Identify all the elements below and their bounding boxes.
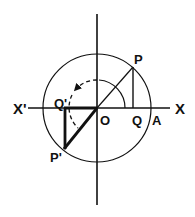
unit-circle-diagram: X' X O Q A P Q' P' — [0, 0, 195, 217]
angle-arc-dashed-continued — [69, 95, 78, 128]
label-x-neg: X' — [13, 100, 27, 117]
thick-segment-op-prime — [64, 108, 97, 149]
angle-arc-solid — [99, 80, 125, 108]
label-p: P — [134, 52, 143, 67]
label-q-prime: Q' — [54, 96, 67, 111]
label-x-pos: X — [175, 100, 185, 117]
label-origin: O — [100, 113, 110, 128]
label-p-prime: P' — [50, 150, 62, 165]
label-q: Q — [132, 113, 142, 128]
label-a: A — [152, 113, 162, 128]
radius-op — [97, 67, 133, 108]
angle-arc-dashed — [76, 80, 97, 89]
